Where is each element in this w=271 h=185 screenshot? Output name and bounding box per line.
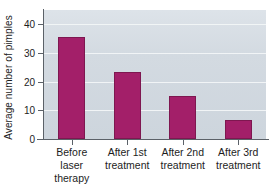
y-tick-label: 30 [24, 48, 35, 59]
plot-area [44, 10, 266, 139]
x-tick-mark [238, 140, 239, 145]
y-axis-title: Average number of pimples [0, 0, 16, 155]
y-tick-mark [38, 110, 44, 111]
bar [114, 72, 141, 139]
bar [58, 37, 85, 139]
bar-chart-figure: Average number of pimples 010203040 Befo… [0, 0, 271, 185]
y-tick-mark [38, 53, 44, 54]
y-tick-label: 20 [24, 76, 35, 87]
x-tick-mark [72, 140, 73, 145]
y-tick-mark [38, 24, 44, 25]
y-axis-tick-labels: 010203040 [16, 0, 37, 155]
bar [169, 96, 196, 139]
bar [225, 120, 252, 139]
y-tick-label: 40 [24, 19, 35, 30]
x-tick-mark [183, 140, 184, 145]
y-tick-mark [38, 82, 44, 83]
x-tick-label: Before laser therapy [44, 146, 100, 185]
x-tick-mark [127, 140, 128, 145]
gridline [44, 24, 266, 25]
y-axis-line [43, 9, 44, 140]
x-tick-label: After 3rd treatment [211, 146, 267, 172]
x-axis-tick-labels: Before laser therapyAfter 1st treatmentA… [37, 146, 271, 185]
y-tick-mark [38, 139, 44, 140]
x-tick-label: After 2nd treatment [155, 146, 211, 172]
y-axis-title-text: Average number of pimples [3, 15, 14, 140]
y-tick-label: 10 [24, 105, 35, 116]
y-tick-label: 0 [29, 134, 35, 145]
x-tick-label: After 1st treatment [100, 146, 156, 172]
